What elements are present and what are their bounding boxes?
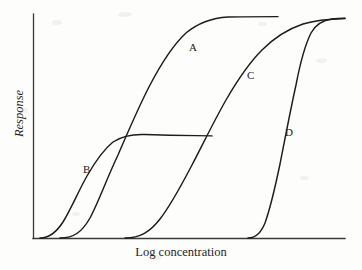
y-axis-label: Response — [12, 79, 27, 149]
curve-label-b: B — [83, 164, 90, 175]
dose-response-figure: A B C D Response Log concentration — [0, 0, 362, 270]
plot-area — [0, 0, 362, 270]
curve-label-c: C — [247, 70, 254, 81]
curve-b — [40, 134, 212, 238]
curve-label-a: A — [189, 42, 197, 53]
x-axis-label: Log concentration — [0, 245, 362, 260]
curve-c — [125, 19, 345, 239]
curve-label-d: D — [285, 127, 293, 138]
curve-d — [248, 18, 345, 238]
